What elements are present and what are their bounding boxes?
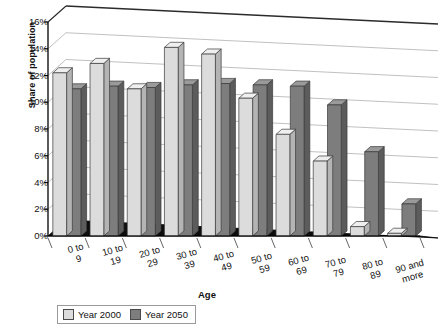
x-axis-title: Age [198,289,216,300]
y-axis-tick-label: 16% [12,17,48,27]
y-axis-tick-label: 0% [12,231,48,241]
legend-label-year-2000: Year 2000 [78,310,121,320]
y-axis-tick-label: 6% [12,151,48,161]
chart-container: Share of population 0%2%4%6%8%10%12%14%1… [0,0,440,335]
chart-plot-area [0,0,440,335]
y-axis-tick-label: 12% [12,71,48,81]
y-axis-tick-label: 8% [12,124,48,134]
chart-legend: Year 2000 Year 2050 [57,305,196,324]
legend-item-year-2000: Year 2000 [63,309,121,320]
legend-item-year-2050: Year 2050 [130,309,188,320]
y-axis-tick-label: 14% [12,44,48,54]
y-axis-tick-label: 4% [12,178,48,188]
y-axis-tick-labels: 0%2%4%6%8%10%12%14%16% [0,0,48,335]
y-axis-tick-label: 10% [12,98,48,108]
legend-swatch-year-2050 [130,309,141,320]
legend-label-year-2050: Year 2050 [145,310,188,320]
y-axis-tick-label: 2% [12,205,48,215]
legend-swatch-year-2000 [63,309,74,320]
